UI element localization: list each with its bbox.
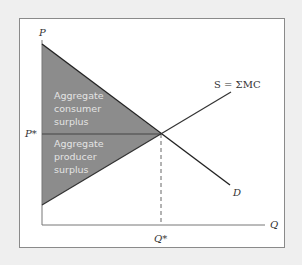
- producer-surplus-label-line1: Aggregate: [54, 138, 104, 149]
- consumer-surplus-label-line2: consumer: [54, 103, 101, 114]
- producer-surplus-label-line2: producer: [54, 151, 97, 162]
- surplus-diagram: P Q P* Q* S = ΣMC D Aggregate consumer s…: [0, 0, 302, 265]
- supply-label: S = ΣMC: [214, 79, 261, 90]
- y-axis-label: P: [38, 27, 46, 38]
- producer-surplus-label-line3: surplus: [54, 164, 89, 175]
- price-star-label: P*: [24, 128, 37, 139]
- demand-label: D: [232, 187, 241, 198]
- quantity-star-label: Q*: [154, 233, 167, 244]
- consumer-surplus-label-line3: surplus: [54, 116, 89, 127]
- x-axis-label: Q: [270, 219, 278, 230]
- consumer-surplus-label-line1: Aggregate: [54, 90, 104, 101]
